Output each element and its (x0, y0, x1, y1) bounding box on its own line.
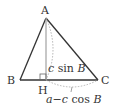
right-angle-marker (40, 74, 46, 80)
label-base-segment: a−c cos B (46, 93, 101, 106)
label-B: B (7, 74, 15, 87)
brace-base (46, 80, 98, 87)
triangle-diagram: A B H C c sin B a−c cos B (0, 0, 114, 112)
side-AB (20, 18, 46, 80)
label-C: C (101, 74, 109, 87)
label-height: c sin B (48, 62, 86, 75)
brace-tick (71, 87, 72, 92)
label-A: A (40, 4, 50, 17)
